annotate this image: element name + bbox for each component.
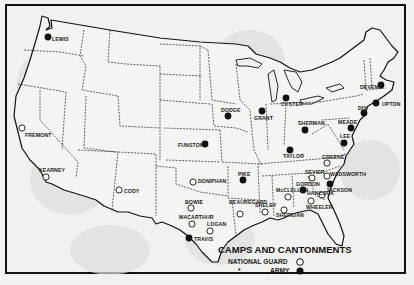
camp-label: MEADE [338,119,358,125]
national-guard-open-circle-icon [285,194,291,200]
camp-label: DIX [358,105,367,111]
legend-title: CAMPS AND CANTONMENTS [218,244,352,255]
army-filled-circle-icon [259,108,266,115]
camp-funston: FUNSTON [178,141,208,148]
legend-open-circle-icon [297,259,304,266]
camp-label: McCLELLAN [276,187,308,193]
camp-label: DONIPHAN [198,178,227,184]
camp-label: LEE [340,133,351,139]
national-guard-open-circle-icon [237,211,243,217]
army-filled-circle-icon [341,140,348,147]
national-guard-open-circle-icon [116,187,122,193]
national-guard-open-circle-icon [188,205,194,211]
legend-army-label: ARMY [270,267,290,274]
camp-label: CUSTER [281,101,303,107]
national-guard-open-circle-icon [190,179,196,185]
camp-label: GRANT [254,115,274,121]
camp-label: LOGAN [207,221,226,227]
army-filled-circle-icon [225,113,232,120]
camp-label: SHERMAN [298,120,325,126]
camp-cody: CODY [116,187,140,194]
camp-travis: TRAVIS [186,235,214,242]
camp-label: KEARNEY [39,167,66,173]
camp-upton: UPTON [373,100,401,107]
national-guard-open-circle-icon [324,160,330,166]
camp-label: SEVIER [305,169,325,175]
camp-label: UPTON [382,101,401,107]
camp-label: WHEELER [306,204,333,210]
camp-label: CODY [124,188,140,194]
camp-label: GREENE [322,154,345,160]
army-filled-circle-icon [240,177,247,184]
camp-label: LEWIS [52,36,69,42]
army-filled-circle-icon [302,127,309,134]
camp-label: DODGE [221,107,241,113]
army-filled-circle-icon [186,235,193,242]
camp-label: TRAVIS [194,236,214,242]
camp-label: FREMONT [25,132,52,138]
camp-label: SHERIDAN [276,212,304,218]
camp-label: HANCOCK [307,190,334,196]
camp-label: BOWIE [185,199,204,205]
army-filled-circle-icon [348,125,355,132]
national-guard-open-circle-icon [19,125,25,131]
camp-label: TAYLOR [283,153,304,159]
camp-label: MACARTHUR [179,214,214,220]
camp-label: SHELBY [255,202,277,208]
us-camps-map: LEWISFREMONTKEARNEYCODYFUNSTONDONIPHANBO… [0,0,414,285]
army-filled-circle-icon [373,100,380,107]
us-map-svg: LEWISFREMONTKEARNEYCODYFUNSTONDONIPHANBO… [0,0,414,285]
legend-filled-circle-icon [297,268,304,275]
legend-national-guard-label: NATIONAL GUARD [228,258,288,265]
camp-label: PIKE [238,171,251,177]
camp-label: FUNSTON [178,142,204,148]
legend-mark: * [238,267,241,274]
legend: CAMPS AND CANTONMENTS NATIONAL GUARD * A… [218,244,352,275]
camp-label: WADSWORTH [330,171,366,177]
national-guard-open-circle-icon [189,221,195,227]
army-filled-circle-icon [45,34,52,41]
camp-label: DEVENS [360,84,382,90]
national-guard-open-circle-icon [207,228,213,234]
national-guard-open-circle-icon [43,174,49,180]
us-outline [14,16,398,262]
national-guard-open-circle-icon [262,209,268,215]
